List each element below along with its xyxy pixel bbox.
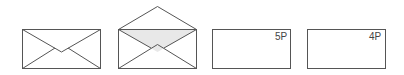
label-5p: 5P [275,32,287,42]
open-envelope-icon [119,7,197,69]
label-4p: 4P [369,32,381,42]
closed-envelope-icon [23,30,101,69]
envelope-diagram [0,0,404,75]
